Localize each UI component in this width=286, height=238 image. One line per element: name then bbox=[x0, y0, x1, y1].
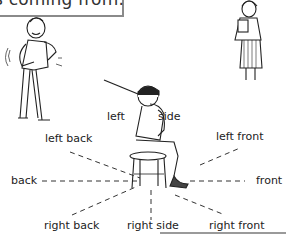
label-left: left bbox=[107, 110, 125, 123]
label-right-side: right side bbox=[127, 219, 179, 232]
label-front: front bbox=[256, 174, 282, 187]
direction-diagram bbox=[0, 0, 286, 238]
girl-with-book-figure bbox=[235, 1, 262, 80]
label-right-front: right front bbox=[209, 219, 265, 232]
label-left-front: left front bbox=[216, 130, 263, 143]
bottom-divider bbox=[160, 232, 286, 234]
label-back: back bbox=[11, 174, 37, 187]
man-scratching-figure bbox=[6, 18, 63, 120]
label-right-back: right back bbox=[44, 219, 99, 232]
seated-listener bbox=[104, 80, 188, 188]
label-side: side bbox=[158, 110, 181, 123]
label-left-back: left back bbox=[45, 132, 92, 145]
